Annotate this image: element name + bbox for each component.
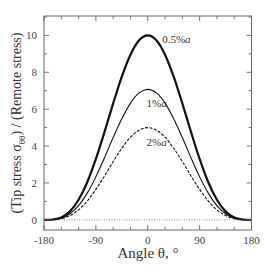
- y-tick-label: 0: [32, 214, 38, 226]
- y-axis-label-prefix: (Tip stress σ: [9, 144, 25, 214]
- series-label-0: 0.5%a: [162, 33, 191, 45]
- y-axis-label-subscript: θθ: [17, 136, 27, 145]
- plot-frame: [44, 16, 252, 230]
- y-tick-label: 10: [26, 29, 38, 41]
- y-axis-label: (Tip stress σθθ) / (Remote stress): [9, 32, 27, 213]
- x-axis-label: Angle θ, °: [117, 245, 178, 261]
- x-tick-label: -180: [34, 234, 55, 246]
- y-tick-label: 4: [32, 140, 38, 152]
- y-tick-label: 8: [32, 66, 38, 78]
- series-label-2: 2%a: [147, 136, 168, 148]
- axis-ticks: [44, 16, 252, 230]
- x-tick-label: 90: [194, 234, 206, 246]
- x-tick-label: -90: [89, 234, 104, 246]
- y-tick-label: 2: [32, 177, 38, 189]
- plot-series: [44, 35, 252, 219]
- series-label-1: 1%a: [147, 97, 168, 109]
- chart: -180-900901800246810 0.5%a1%a2%a Angle θ…: [0, 0, 265, 272]
- y-axis-label-suffix: ) / (Remote stress): [9, 32, 25, 135]
- svg-text:(Tip stress σθθ) / (Remote str: (Tip stress σθθ) / (Remote stress): [9, 32, 27, 213]
- y-tick-label: 6: [32, 103, 38, 115]
- x-tick-label: 180: [243, 234, 260, 246]
